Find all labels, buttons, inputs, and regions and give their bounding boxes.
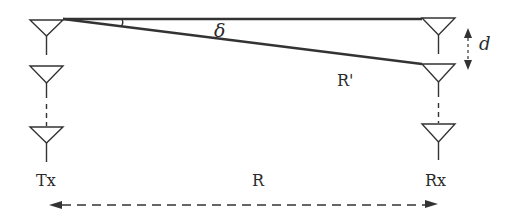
angle-arc <box>121 20 123 27</box>
rx-antenna-array <box>422 18 455 160</box>
antenna-geometry-diagram: δ R' d Tx Rx R <box>0 0 517 221</box>
angle-label: δ <box>214 19 225 41</box>
slant-path-line <box>63 19 422 64</box>
spacing-label: d <box>479 33 491 54</box>
slant-range-label: R' <box>337 71 353 90</box>
tx-antenna-2-icon <box>30 66 63 126</box>
rx-antenna-3-icon <box>422 124 455 160</box>
range-label: R <box>252 171 265 190</box>
tx-antenna-1-icon <box>30 20 63 55</box>
tx-antenna-3-icon <box>30 127 63 162</box>
spacing-double-arrow-icon <box>464 28 472 70</box>
rx-antenna-1-icon <box>422 18 455 54</box>
rx-antenna-2-icon <box>422 64 455 123</box>
tx-antenna-array <box>30 20 63 162</box>
range-double-arrow-icon <box>49 200 438 209</box>
tx-label: Tx <box>36 171 56 190</box>
rx-label: Rx <box>425 171 446 190</box>
